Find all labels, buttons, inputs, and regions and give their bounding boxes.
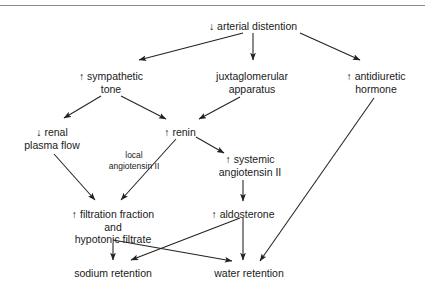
node-aldosterone: ↑ aldosterone — [211, 208, 274, 221]
node-sympathetic-tone-line-1: ↑ sympathetic — [79, 70, 143, 83]
node-antidiuretic-hormone-line-1: ↑ antidiuretic — [347, 70, 406, 83]
edge-label-local-angiotensin-ii-line-2: angiotensin II — [109, 161, 160, 172]
node-juxtaglomerular-apparatus-line-1: juxtaglomerular — [216, 70, 288, 83]
edge-sympathetic-to-renin — [121, 96, 166, 119]
node-aldosterone-line-1: ↑ aldosterone — [211, 208, 274, 221]
node-antidiuretic-hormone-line-2: hormone — [347, 83, 406, 96]
node-filtration-fraction-line-1: ↑ filtration fraction — [72, 208, 154, 221]
edge-distention-to-adh — [300, 33, 360, 60]
node-arterial-distention: ↓ arterial distention — [209, 20, 297, 33]
node-sodium-retention-line-1: sodium retention — [74, 267, 152, 280]
node-renal-plasma-flow-line-1: ↓ renal — [24, 126, 79, 139]
node-antidiuretic-hormone: ↑ antidiuretic hormone — [347, 70, 406, 95]
node-filtration-fraction-line-2: and — [72, 221, 154, 234]
node-arterial-distention-line-1: ↓ arterial distention — [209, 20, 297, 33]
node-renal-plasma-flow: ↓ renal plasma flow — [24, 126, 79, 151]
node-systemic-angiotensin-ii-line-1: ↑ systemic — [219, 153, 281, 166]
edge-renin-to-systemic-angiotensin — [196, 137, 224, 153]
node-renin-line-1: ↑ renin — [164, 126, 196, 139]
node-juxtaglomerular-apparatus-line-2: apparatus — [216, 83, 288, 96]
edge-juxtaglomerular-to-renin — [199, 97, 240, 119]
edge-adh-to-water-retention — [260, 98, 374, 261]
edge-label-local-angiotensin-ii: local angiotensin II — [109, 150, 160, 171]
edge-label-local-angiotensin-ii-line-1: local — [109, 150, 160, 161]
node-sympathetic-tone: ↑ sympathetic tone — [79, 70, 143, 95]
edge-sympathetic-to-renal-plasma-flow — [64, 96, 101, 118]
node-water-retention: water retention — [214, 267, 283, 280]
node-filtration-fraction-line-3: hypotonic filtrate — [72, 233, 154, 246]
node-systemic-angiotensin-ii: ↑ systemic angiotensin II — [219, 153, 281, 178]
node-filtration-fraction: ↑ filtration fraction and hypotonic filt… — [72, 208, 154, 246]
node-water-retention-line-1: water retention — [214, 267, 283, 280]
edge-renal-plasma-flow-to-filtration — [54, 154, 95, 200]
diagram-canvas: ↓ arterial distention ↑ sympathetic tone… — [0, 0, 425, 297]
node-sympathetic-tone-line-2: tone — [79, 83, 143, 96]
node-juxtaglomerular-apparatus: juxtaglomerular apparatus — [216, 70, 288, 95]
node-renal-plasma-flow-line-2: plasma flow — [24, 139, 79, 152]
node-sodium-retention: sodium retention — [74, 267, 152, 280]
node-systemic-angiotensin-ii-line-2: angiotensin II — [219, 166, 281, 179]
node-renin: ↑ renin — [164, 126, 196, 139]
edge-distention-to-sympathetic — [139, 33, 243, 60]
